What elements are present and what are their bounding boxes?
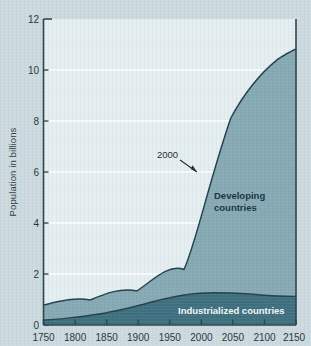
x-tick-label-1950: 1950 [159, 332, 182, 343]
x-tick-label-2000: 2000 [190, 332, 213, 343]
y-tick-label-4: 4 [33, 218, 39, 229]
x-tick-label-2150: 2150 [283, 332, 306, 343]
y-tick-label-10: 10 [28, 65, 40, 76]
y-tick-label-2: 2 [33, 269, 39, 280]
chart-svg: 0 2 4 6 8 10 12 1750 1800 1850 1900 195 [0, 0, 311, 346]
x-tick-label-1800: 1800 [64, 332, 87, 343]
series-label-industrialized-countries: Industrialized countries [178, 305, 285, 316]
x-axis-tick-labels: 1750 1800 1850 1900 1950 2000 2050 2100 … [32, 332, 305, 343]
y-tick-label-0: 0 [33, 320, 39, 331]
y-tick-label-6: 6 [33, 167, 39, 178]
developing-label-line2: countries [214, 202, 257, 213]
x-tick-label-1900: 1900 [127, 332, 150, 343]
x-tick-label-1750: 1750 [32, 332, 55, 343]
y-axis-title: Population in billions [7, 127, 18, 216]
x-tick-label-2100: 2100 [253, 332, 276, 343]
y-tick-label-8: 8 [33, 116, 39, 127]
developing-label-line1: Developing [214, 190, 265, 201]
x-tick-label-2050: 2050 [222, 332, 245, 343]
x-tick-label-1850: 1850 [96, 332, 119, 343]
population-area-chart: 0 2 4 6 8 10 12 1750 1800 1850 1900 195 [0, 0, 311, 346]
annotation-2000-label: 2000 [157, 149, 178, 160]
y-tick-label-12: 12 [28, 14, 40, 25]
